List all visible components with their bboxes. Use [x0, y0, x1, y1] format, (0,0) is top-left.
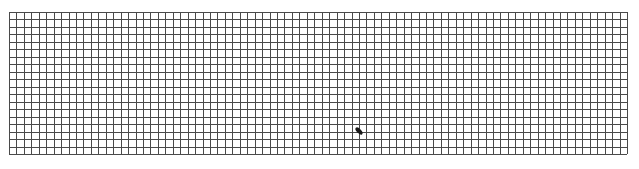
background — [0, 0, 639, 169]
grid-canvas — [0, 0, 639, 169]
grid-paper — [0, 0, 639, 169]
